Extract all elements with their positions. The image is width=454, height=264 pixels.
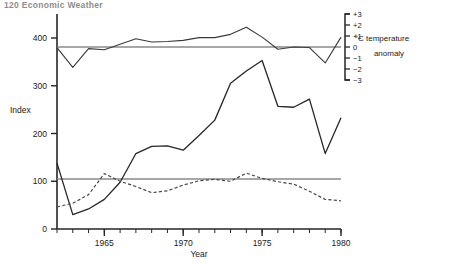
chart-figure: 120 Economic Weather 0100200300400 19651… [0, 0, 454, 264]
secondary-tick-label: −2 [353, 65, 362, 74]
y-axis-tick-labels: 0100200300400 [33, 33, 47, 234]
secondary-tick-label: −1 [353, 54, 362, 63]
secondary-tick-label: 0 [353, 43, 357, 52]
page-header-clipped: 120 Economic Weather [4, 0, 204, 11]
chart-canvas: 0100200300400 1965197019751980 Index Yea… [0, 0, 454, 264]
x-tick-label: 1970 [174, 238, 193, 248]
y-tick-label: 0 [42, 224, 47, 234]
secondary-tick-label: +3 [353, 10, 362, 19]
secondary-axis-label-line2: anomaly [374, 49, 404, 58]
secondary-tick-label: −3 [353, 76, 362, 85]
secondary-axis-tick-labels: +3+2+10−1−2−3 [353, 10, 362, 85]
y-tick-label: 400 [33, 33, 47, 43]
y-tick-label: 100 [33, 176, 47, 186]
y-tick-label: 200 [33, 129, 47, 139]
y-axis-ticks [51, 38, 57, 229]
secondary-axis-label-line1: °C temperature [355, 34, 410, 43]
series-index-solid [57, 60, 341, 214]
x-tick-label: 1975 [253, 238, 272, 248]
x-tick-label: 1980 [332, 238, 351, 248]
x-axis-tick-labels: 1965197019751980 [95, 238, 351, 248]
y-axis-title: Index [10, 105, 32, 115]
x-tick-label: 1965 [95, 238, 114, 248]
y-tick-label: 300 [33, 81, 47, 91]
secondary-tick-label: +2 [353, 21, 362, 30]
x-axis-major-ticks [104, 229, 341, 236]
x-axis-title: Year [190, 249, 207, 259]
secondary-axis: +3+2+10−1−2−3 [345, 10, 362, 85]
